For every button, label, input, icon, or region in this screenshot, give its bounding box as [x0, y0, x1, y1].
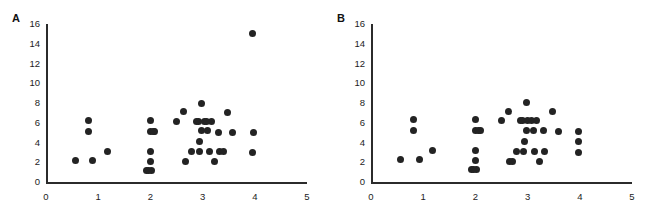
data-point	[249, 30, 256, 37]
x-axis-line	[46, 182, 307, 184]
data-point	[472, 116, 479, 123]
data-point	[229, 129, 236, 136]
x-tick-label: 1	[413, 191, 433, 202]
data-point	[555, 128, 562, 135]
y-tick-label: 0	[20, 176, 40, 187]
data-point	[505, 108, 512, 115]
data-point	[188, 148, 195, 155]
data-point	[215, 129, 222, 136]
data-point	[472, 147, 479, 154]
data-point	[145, 167, 152, 174]
data-point	[531, 148, 538, 155]
data-point	[180, 108, 187, 115]
data-point	[89, 157, 96, 164]
data-point	[410, 127, 417, 134]
x-tick-label: 5	[297, 191, 317, 202]
data-point	[204, 127, 211, 134]
data-point	[147, 158, 154, 165]
data-point	[520, 148, 527, 155]
data-point	[85, 117, 92, 124]
y-tick-label: 8	[20, 97, 40, 108]
data-point	[147, 117, 154, 124]
data-point	[536, 158, 543, 165]
data-point	[196, 148, 203, 155]
data-point	[150, 128, 157, 135]
x-tick-label: 4	[245, 191, 265, 202]
data-point	[530, 127, 537, 134]
data-point	[475, 127, 482, 134]
y-tick-label: 4	[20, 137, 40, 148]
data-point	[211, 158, 218, 165]
y-tick-label: 2	[345, 156, 365, 167]
y-tick-label: 6	[20, 117, 40, 128]
data-point	[540, 127, 547, 134]
y-tick-label: 6	[345, 117, 365, 128]
x-tick-label: 0	[36, 191, 56, 202]
data-point	[203, 118, 210, 125]
y-tick-label: 16	[20, 18, 40, 29]
panel-label-b: B	[337, 12, 345, 24]
data-point	[517, 117, 524, 124]
data-point	[429, 147, 436, 154]
x-tick-label: 2	[140, 191, 160, 202]
x-tick-label: 2	[465, 191, 485, 202]
data-point	[85, 128, 92, 135]
y-tick-label: 16	[345, 18, 365, 29]
y-tick-label: 4	[345, 137, 365, 148]
data-point	[224, 109, 231, 116]
data-point	[575, 128, 582, 135]
data-point	[513, 148, 520, 155]
y-tick-label: 12	[20, 58, 40, 69]
data-point	[575, 149, 582, 156]
data-point	[523, 127, 530, 134]
y-tick-label: 12	[345, 58, 365, 69]
x-tick-label: 4	[570, 191, 590, 202]
data-point	[182, 158, 189, 165]
data-point	[173, 118, 180, 125]
y-tick-label: 14	[345, 38, 365, 49]
y-tick-label: 10	[345, 77, 365, 88]
data-point	[523, 99, 530, 106]
y-axis-line	[46, 24, 48, 184]
data-point	[196, 138, 203, 145]
data-point	[104, 148, 111, 155]
x-axis-line	[371, 182, 632, 184]
y-tick-label: 14	[20, 38, 40, 49]
data-point	[249, 149, 256, 156]
x-tick-label: 5	[622, 191, 642, 202]
y-tick-label: 2	[20, 156, 40, 167]
y-tick-label: 10	[20, 77, 40, 88]
x-tick-label: 0	[361, 191, 381, 202]
scatter-plot-figure: A0246810121416012345B0246810121416012345	[0, 0, 655, 212]
x-tick-label: 3	[193, 191, 213, 202]
data-point	[509, 158, 516, 165]
y-tick-label: 8	[345, 97, 365, 108]
y-tick-label: 0	[345, 176, 365, 187]
data-point	[410, 116, 417, 123]
data-point	[206, 148, 213, 155]
data-point	[397, 156, 404, 163]
panel-label-a: A	[12, 12, 20, 24]
data-point	[72, 157, 79, 164]
data-point	[147, 148, 154, 155]
data-point	[533, 117, 540, 124]
data-point	[472, 157, 479, 164]
data-point	[416, 156, 423, 163]
data-point	[250, 129, 257, 136]
y-axis-line	[371, 24, 373, 184]
data-point	[470, 166, 477, 173]
x-tick-label: 3	[518, 191, 538, 202]
data-point	[498, 117, 505, 124]
data-point	[521, 138, 528, 145]
data-point	[220, 148, 227, 155]
x-tick-label: 1	[88, 191, 108, 202]
data-point	[549, 108, 556, 115]
data-point	[198, 100, 205, 107]
data-point	[541, 148, 548, 155]
data-point	[575, 138, 582, 145]
